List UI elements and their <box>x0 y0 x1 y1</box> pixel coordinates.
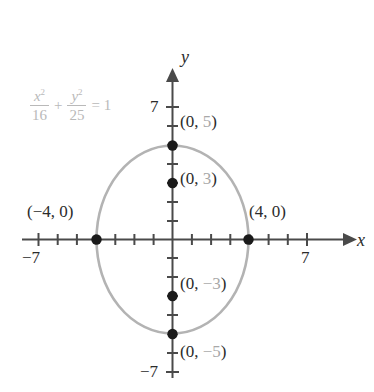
point-label-0-negative3: (0, −3) <box>180 275 226 292</box>
equation-plus-sign: + <box>54 98 62 113</box>
point-neg4-0 <box>91 234 101 244</box>
point-label-negative4-0: (−4, 0) <box>27 203 73 220</box>
point-0-5 <box>167 140 177 150</box>
y-tick-label-positive-7: 7 <box>150 98 159 115</box>
equation-fraction-y: y2 25 <box>67 88 86 123</box>
fraction-bar-y <box>67 105 86 106</box>
point-0-neg5 <box>167 329 177 339</box>
equation-denominator-y: 25 <box>67 107 86 123</box>
equation-numerator-x: x2 <box>32 88 47 104</box>
point-label-0-negative5: (0, −5) <box>180 343 226 360</box>
x-axis-arrowhead <box>343 233 357 246</box>
fraction-bar-x <box>30 105 49 106</box>
x-tick-label-positive-7: 7 <box>301 249 310 266</box>
equation-fraction-x: x2 16 <box>30 88 49 123</box>
y-axis-arrowhead <box>166 68 179 82</box>
equation-denominator-x: 16 <box>30 107 49 123</box>
equation-equals-one: = 1 <box>91 98 111 113</box>
y-axis-label: y <box>181 48 189 66</box>
equation-numerator-y: y2 <box>69 88 84 104</box>
y-tick-label-negative-7: −7 <box>140 363 158 380</box>
ellipse-equation: x2 16 + y2 25 = 1 <box>28 88 114 123</box>
point-label-4-0: (4, 0) <box>249 203 286 220</box>
x-tick-label-negative-7: −7 <box>22 249 40 266</box>
point-0-3 <box>167 178 177 188</box>
point-0-neg3 <box>167 291 177 301</box>
point-label-0-3: (0, 3) <box>180 170 217 187</box>
point-4-0 <box>243 234 253 244</box>
x-axis-label: x <box>357 231 365 249</box>
ellipse-figure: x2 16 + y2 25 = 1 y x −7 7 7 −7 (0, 5) (… <box>0 0 374 392</box>
point-label-0-5: (0, 5) <box>180 113 217 130</box>
